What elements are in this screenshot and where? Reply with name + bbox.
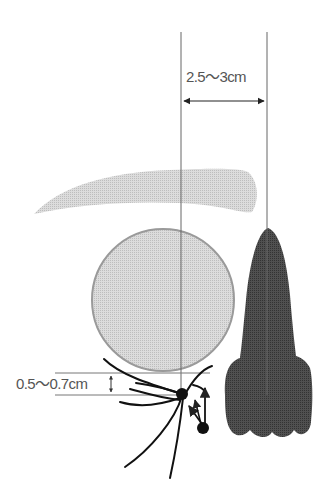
short-arrow [195,400,201,424]
eyelashes [104,359,212,478]
height-measure-label: 0.5〜0.7cm [16,376,87,391]
nose-wing-dot [197,422,209,434]
inner-corner-dot [176,388,188,400]
eye-circle [92,229,234,371]
width-measure-label: 2.5〜3cm [186,69,246,84]
eyebrow-shape [34,169,257,214]
nose-shape [225,228,313,437]
diagram-canvas [0,0,323,495]
